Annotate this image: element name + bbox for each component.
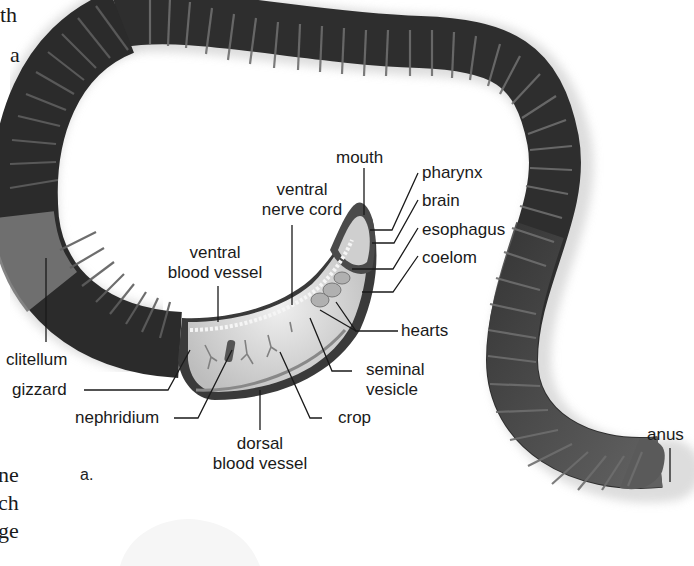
label-esophagus: esophagus [422, 220, 505, 240]
label-dorsal-blood-vessel: dorsal blood vessel [200, 434, 320, 474]
earthworm-diagram: th a ne ch ge mouth pharynx brain esopha… [0, 0, 694, 566]
earthworm-illustration [0, 0, 694, 566]
label-gizzard: gizzard [12, 380, 67, 400]
margin-text-top-1: th [0, 2, 17, 28]
label-clitellum: clitellum [6, 350, 67, 370]
label-mouth: mouth [336, 148, 383, 168]
label-crop: crop [338, 408, 371, 428]
margin-text-bottom-1: ne [0, 462, 19, 488]
label-hearts: hearts [401, 321, 448, 341]
label-ventral-nerve-cord: ventral nerve cord [244, 180, 360, 220]
label-anus: anus [647, 425, 684, 445]
label-pharynx: pharynx [422, 163, 482, 183]
clitellum-band [22, 215, 52, 292]
margin-text-bottom-3: ge [0, 518, 19, 544]
label-nephridium: nephridium [75, 408, 159, 428]
margin-text-bottom-2: ch [0, 490, 19, 516]
label-brain: brain [422, 191, 460, 211]
label-coelom: coelom [422, 248, 477, 268]
margin-text-top-2: a [10, 42, 20, 68]
panel-label: a. [80, 466, 93, 484]
label-seminal-vesicle: seminal vesicle [366, 360, 425, 400]
label-ventral-blood-vessel: ventral blood vessel [156, 243, 274, 283]
